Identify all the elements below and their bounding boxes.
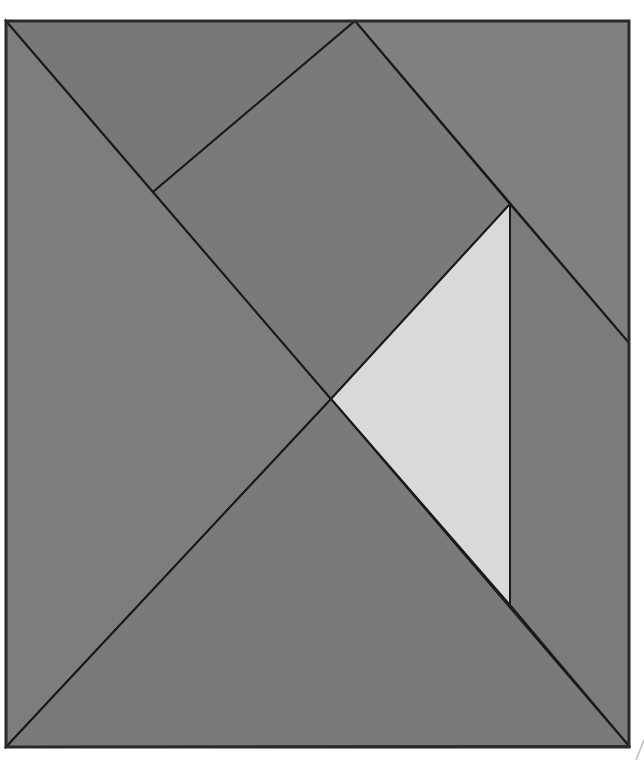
corner-artifact-line — [636, 740, 644, 760]
tangram-diagram — [0, 0, 644, 763]
tangram-pieces — [6, 21, 629, 747]
